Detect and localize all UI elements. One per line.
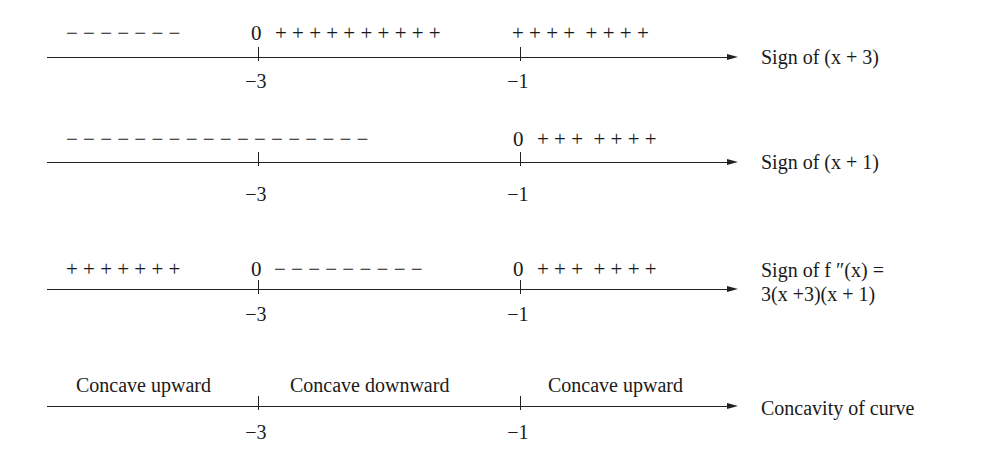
row-label: Concavity of curve [761,396,914,420]
region-concave-upward-left: Concave upward [76,374,211,396]
tick-label-minus-1: −1 [507,422,528,442]
arrow-head-icon [727,403,738,409]
tick-minus-1 [520,396,521,410]
region-concave-upward-right: Concave upward [548,374,683,396]
region-concave-downward: Concave downward [290,374,449,396]
tick-label-minus-3: −3 [245,422,266,442]
number-line [47,406,729,407]
tick-minus-3 [258,396,259,410]
concavity-row: Concave upward Concave downward Concave … [0,0,1001,460]
